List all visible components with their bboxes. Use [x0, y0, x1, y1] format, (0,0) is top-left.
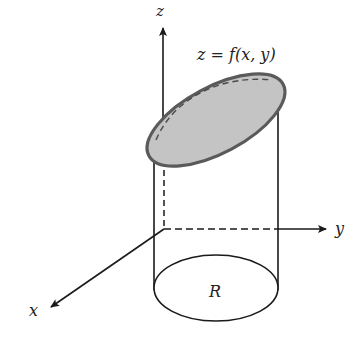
surface-patch [133, 55, 298, 185]
diagram-canvas: z y x z = f(x, y) R [0, 0, 364, 351]
y-axis-label: y [334, 219, 345, 238]
region-label: R [208, 282, 221, 301]
x-axis-label: x [29, 301, 38, 320]
x-axis [51, 229, 164, 307]
surface-equation-label: z = f(x, y) [196, 45, 276, 64]
z-axis-label: z [155, 2, 164, 20]
